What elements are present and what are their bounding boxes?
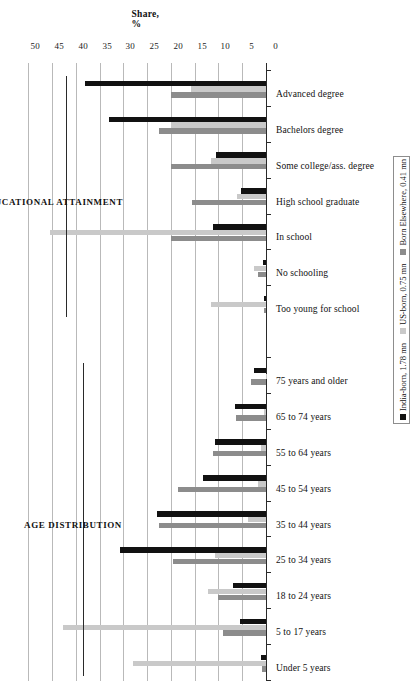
legend-swatch-icon (400, 249, 406, 255)
category-label: Too young for school (276, 304, 359, 314)
bar-us-born (133, 661, 266, 666)
bar-india-born (261, 655, 266, 660)
category-tick (266, 106, 271, 107)
category-label: Some college/ass. degree (276, 161, 374, 171)
legend-item[interactable]: Born Elsewhere, 0.41 mn (398, 159, 408, 255)
bar-born-elsewhere (251, 379, 266, 384)
bar-india-born (157, 511, 266, 516)
axis-tick-10: 10 (204, 41, 230, 51)
gridline-30 (123, 63, 124, 681)
category-label: No schooling (276, 268, 328, 278)
category-label: In school (276, 232, 312, 242)
bar-us-born (248, 517, 266, 522)
bar-us-born (211, 158, 266, 163)
chart-plot-area: 50454035302520151050Share, %Under 5 year… (0, 0, 413, 693)
bar-india-born (235, 404, 266, 409)
axis-tick-0: 0 (252, 41, 278, 51)
bar-us-born (171, 122, 266, 127)
bar-us-born (191, 86, 266, 91)
category-label: 65 to 74 years (276, 412, 331, 422)
axis-tick-5: 5 (228, 41, 254, 51)
category-label: 25 to 34 years (276, 555, 331, 565)
chart-stage: 50454035302520151050Share, %Under 5 year… (0, 0, 413, 693)
category-label: Advanced degree (276, 89, 344, 99)
category-tick (266, 536, 271, 537)
category-tick (266, 357, 271, 358)
legend-swatch-icon (400, 328, 406, 334)
bar-india-born (264, 296, 266, 301)
gridline-0 (266, 63, 267, 681)
legend-label: India-born, 1.78 mn (398, 343, 408, 411)
bar-born-elsewhere (236, 415, 266, 420)
bar-us-born (63, 625, 266, 630)
category-label: Under 5 years (276, 663, 331, 673)
bar-us-born (264, 409, 266, 414)
category-tick (266, 285, 271, 286)
gridline-35 (100, 63, 101, 681)
gridline-45 (52, 63, 53, 681)
bar-us-born (261, 445, 266, 450)
bar-india-born (241, 188, 266, 193)
category-label: 18 to 24 years (276, 591, 331, 601)
category-tick (266, 393, 271, 394)
category-label: High school graduate (276, 197, 359, 207)
gridline-20 (171, 63, 172, 681)
category-label: 45 to 54 years (276, 484, 331, 494)
category-tick (266, 608, 271, 609)
category-tick (266, 249, 271, 250)
category-tick (266, 70, 271, 71)
bar-india-born (216, 152, 266, 157)
gridline-25 (147, 63, 148, 681)
axis-tick-15: 15 (181, 41, 207, 51)
bar-us-born (237, 194, 266, 199)
bar-us-born (215, 553, 266, 558)
bar-india-born (109, 117, 266, 122)
bar-india-born (85, 81, 266, 86)
bar-born-elsewhere (264, 308, 266, 313)
bar-india-born (120, 547, 266, 552)
bar-born-elsewhere (258, 272, 266, 277)
bar-born-elsewhere (178, 487, 266, 492)
axis-tick-40: 40 (62, 41, 88, 51)
bar-us-born (211, 302, 266, 307)
axis-tick-30: 30 (109, 41, 135, 51)
bar-india-born (254, 368, 266, 373)
bar-us-born (50, 230, 266, 235)
axis-tick-45: 45 (38, 41, 64, 51)
bar-india-born (263, 260, 266, 265)
bar-india-born (215, 439, 266, 444)
category-label: Bachelors degree (276, 125, 343, 135)
bar-us-born (254, 266, 266, 271)
bar-india-born (203, 475, 266, 480)
category-label: 55 to 64 years (276, 448, 331, 458)
bar-born-elsewhere (171, 92, 266, 97)
bar-born-elsewhere (173, 559, 266, 564)
bar-born-elsewhere (213, 451, 266, 456)
bar-born-elsewhere (223, 631, 266, 636)
category-tick (266, 429, 271, 430)
bar-us-born (208, 589, 266, 594)
bar-born-elsewhere (218, 595, 266, 600)
bar-india-born (233, 583, 266, 588)
bar-us-born (266, 374, 267, 379)
category-tick (266, 644, 271, 645)
axis-tick-35: 35 (86, 41, 112, 51)
legend-label: Born Elsewhere, 0.41 mn (398, 159, 408, 246)
axis-tick-25: 25 (133, 41, 159, 51)
gridline-15 (195, 63, 196, 681)
category-tick (266, 142, 271, 143)
chart-legend: India-born, 1.78 mnUS-born, 0.75 mnBorn … (393, 156, 410, 424)
gridline-50 (28, 63, 29, 681)
bar-us-born (258, 481, 266, 486)
bar-born-elsewhere (171, 236, 266, 241)
bar-born-elsewhere (159, 128, 266, 133)
category-tick (266, 178, 271, 179)
legend-swatch-icon (400, 414, 406, 420)
gridline-40 (76, 63, 77, 681)
legend-item[interactable]: India-born, 1.78 mn (398, 343, 408, 420)
bar-born-elsewhere (171, 164, 266, 169)
axis-title: Share, % (132, 9, 169, 29)
bar-india-born (213, 224, 266, 229)
group-title: EDUCATIONAL ATTAINMENT (0, 197, 123, 207)
legend-item[interactable]: US-born, 0.75 mn (398, 264, 408, 334)
